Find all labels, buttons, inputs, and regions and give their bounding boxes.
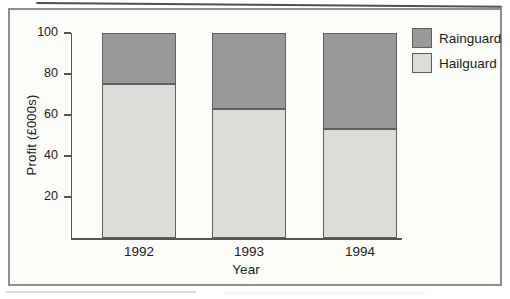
bar-1993-hailguard-segment (212, 109, 286, 238)
y-axis-line (71, 33, 73, 238)
legend-item-hailguard: Hailguard (412, 53, 497, 73)
bar-1994-rainguard-segment (323, 33, 397, 129)
plot-area: 20406080100199219931994 (72, 33, 402, 238)
bar-1994-hailguard-segment (323, 129, 397, 238)
x-axis-line (71, 238, 402, 240)
x-tick-label-1994: 1994 (323, 244, 397, 259)
bar-1992 (102, 33, 176, 238)
legend-swatch-rainguard (412, 28, 432, 48)
y-tick-label-100: 100 (14, 25, 58, 39)
legend-item-rainguard: Rainguard (412, 28, 501, 48)
y-tick-80 (64, 73, 71, 75)
scan-smudge-left (6, 291, 196, 293)
y-tick-label-80: 80 (14, 66, 58, 80)
y-tick-20 (64, 196, 71, 198)
x-tick-label-1993: 1993 (212, 244, 286, 259)
y-tick-label-60: 60 (14, 107, 58, 121)
bar-1992-rainguard-segment (102, 33, 176, 84)
x-tick-label-1992: 1992 (102, 244, 176, 259)
y-tick-100 (64, 32, 71, 34)
bar-1993-rainguard-segment (212, 33, 286, 109)
legend-label-rainguard: Rainguard (439, 31, 501, 46)
x-axis-label: Year (196, 262, 296, 277)
scan-smudge-right (225, 292, 425, 294)
legend-swatch-hailguard (412, 53, 432, 73)
figure-frame: Profit (£000s) 20406080100199219931994 Y… (8, 8, 502, 286)
scan-artifact-line (36, 2, 502, 8)
y-tick-60 (64, 114, 71, 116)
y-tick-label-40: 40 (14, 148, 58, 162)
bar-1994 (323, 33, 397, 238)
legend-label-hailguard: Hailguard (439, 56, 497, 71)
bar-1993 (212, 33, 286, 238)
y-tick-40 (64, 155, 71, 157)
y-tick-label-20: 20 (14, 189, 58, 203)
bar-1992-hailguard-segment (102, 84, 176, 238)
scanned-figure: Profit (£000s) 20406080100199219931994 Y… (0, 0, 510, 299)
